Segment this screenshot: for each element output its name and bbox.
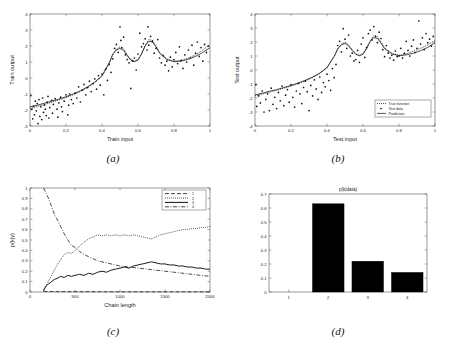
subplot-b: 00.20.40.60.81-4-3-2-101234Test inputTes… bbox=[225, 4, 451, 152]
svg-text:p(k|data): p(k|data) bbox=[339, 187, 358, 192]
svg-text:0.4: 0.4 bbox=[22, 248, 28, 253]
svg-text:0: 0 bbox=[29, 128, 32, 133]
subplot-d-data bbox=[312, 204, 423, 292]
figure-panel-grid: 00.20.40.60.81-3-2-101234Train inputTrai… bbox=[0, 0, 451, 355]
subplot-a-axes: 00.20.40.60.81-3-2-101234Train inputTrai… bbox=[9, 12, 212, 142]
svg-text:0: 0 bbox=[25, 76, 28, 81]
svg-text:4: 4 bbox=[25, 12, 28, 17]
svg-text:0.5: 0.5 bbox=[261, 220, 267, 225]
svg-text:0.7: 0.7 bbox=[261, 192, 267, 197]
svg-text:0: 0 bbox=[264, 290, 267, 295]
svg-text:0: 0 bbox=[25, 290, 28, 295]
svg-text:0.7: 0.7 bbox=[22, 217, 28, 222]
svg-text:0.4: 0.4 bbox=[99, 128, 105, 133]
svg-text:0.1: 0.1 bbox=[22, 279, 28, 284]
svg-text:0.8: 0.8 bbox=[396, 128, 402, 133]
subplot-b-axes: 00.20.40.60.81-4-3-2-101234Test inputTes… bbox=[234, 12, 437, 142]
svg-text:3: 3 bbox=[192, 201, 194, 205]
svg-text:Prediction: Prediction bbox=[389, 112, 405, 116]
caption-b: (b) bbox=[225, 152, 451, 164]
subplot-d-title: p(k|data) bbox=[339, 187, 358, 192]
svg-text:Test data: Test data bbox=[389, 107, 404, 111]
svg-text:-4: -4 bbox=[249, 124, 253, 129]
svg-text:Test output: Test output bbox=[234, 56, 240, 84]
svg-text:0.6: 0.6 bbox=[22, 227, 28, 232]
svg-text:-3: -3 bbox=[249, 110, 253, 115]
svg-text:0: 0 bbox=[250, 68, 253, 73]
svg-text:0.6: 0.6 bbox=[135, 128, 141, 133]
svg-text:0.4: 0.4 bbox=[261, 234, 267, 239]
svg-text:3: 3 bbox=[250, 26, 253, 31]
svg-text:0.3: 0.3 bbox=[261, 248, 267, 253]
svg-text:Chain length: Chain length bbox=[104, 302, 135, 308]
svg-text:4: 4 bbox=[250, 12, 253, 17]
svg-text:1: 1 bbox=[25, 60, 28, 65]
svg-text:0.1: 0.1 bbox=[261, 276, 267, 281]
subplot-a-canvas: 00.20.40.60.81-3-2-101234Train inputTrai… bbox=[0, 4, 226, 152]
svg-text:1: 1 bbox=[25, 186, 28, 191]
subplot-c: 050010001500200000.10.20.30.40.50.60.70.… bbox=[0, 180, 226, 323]
svg-text:1: 1 bbox=[434, 128, 437, 133]
svg-text:2000: 2000 bbox=[205, 294, 215, 299]
svg-text:0.4: 0.4 bbox=[324, 128, 330, 133]
svg-text:-2: -2 bbox=[24, 108, 28, 113]
svg-text:-3: -3 bbox=[24, 124, 28, 129]
svg-text:-1: -1 bbox=[249, 82, 253, 87]
svg-text:0.2: 0.2 bbox=[288, 128, 294, 133]
svg-text:0: 0 bbox=[254, 128, 257, 133]
svg-text:True function: True function bbox=[389, 102, 410, 106]
svg-text:1: 1 bbox=[250, 54, 253, 59]
svg-text:3: 3 bbox=[25, 28, 28, 33]
svg-text:Test input: Test input bbox=[333, 136, 357, 142]
svg-text:1500: 1500 bbox=[160, 294, 170, 299]
subplot-d: 00.10.20.30.40.50.60.71234 p(k|data) bbox=[225, 180, 451, 323]
svg-text:0: 0 bbox=[29, 294, 32, 299]
svg-text:2: 2 bbox=[25, 44, 28, 49]
svg-text:0.6: 0.6 bbox=[360, 128, 366, 133]
svg-text:2: 2 bbox=[327, 295, 330, 300]
subplot-b-canvas: 00.20.40.60.81-4-3-2-101234Test inputTes… bbox=[225, 4, 451, 152]
svg-text:0.2: 0.2 bbox=[22, 269, 28, 274]
svg-text:2: 2 bbox=[192, 197, 194, 201]
subplot-b-legend: True functionTest dataPrediction bbox=[375, 100, 431, 117]
svg-text:3: 3 bbox=[367, 295, 370, 300]
caption-c: (c) bbox=[0, 325, 226, 337]
caption-a: (a) bbox=[0, 152, 226, 164]
svg-text:Train output: Train output bbox=[9, 55, 15, 85]
svg-text:500: 500 bbox=[72, 294, 80, 299]
svg-text:Train input: Train input bbox=[107, 136, 134, 142]
svg-text:0.9: 0.9 bbox=[22, 196, 28, 201]
svg-text:4: 4 bbox=[406, 295, 409, 300]
svg-text:0.2: 0.2 bbox=[261, 262, 267, 267]
subplot-c-canvas: 050010001500200000.10.20.30.40.50.60.70.… bbox=[0, 180, 226, 323]
subplot-a-data bbox=[30, 26, 210, 125]
svg-text:1: 1 bbox=[192, 192, 194, 196]
svg-text:2: 2 bbox=[250, 40, 253, 45]
caption-d: (d) bbox=[225, 325, 451, 337]
svg-text:1: 1 bbox=[209, 128, 212, 133]
svg-text:0.3: 0.3 bbox=[22, 258, 28, 263]
svg-text:0.2: 0.2 bbox=[63, 128, 69, 133]
svg-text:1: 1 bbox=[288, 295, 291, 300]
svg-text:0.8: 0.8 bbox=[22, 206, 28, 211]
subplot-b-data bbox=[255, 20, 435, 113]
svg-text:0.8: 0.8 bbox=[171, 128, 177, 133]
svg-text:1000: 1000 bbox=[115, 294, 125, 299]
svg-text:0.5: 0.5 bbox=[22, 238, 28, 243]
subplot-c-legend: 1234 bbox=[162, 190, 206, 210]
subplot-d-canvas: 00.10.20.30.40.50.60.71234 p(k|data) bbox=[225, 180, 451, 323]
svg-text:4: 4 bbox=[192, 205, 194, 209]
svg-text:p(k|y): p(k|y) bbox=[9, 233, 15, 247]
svg-text:-2: -2 bbox=[249, 96, 253, 101]
svg-text:0.6: 0.6 bbox=[261, 206, 267, 211]
subplot-a: 00.20.40.60.81-3-2-101234Train inputTrai… bbox=[0, 4, 226, 152]
svg-text:-1: -1 bbox=[24, 92, 28, 97]
